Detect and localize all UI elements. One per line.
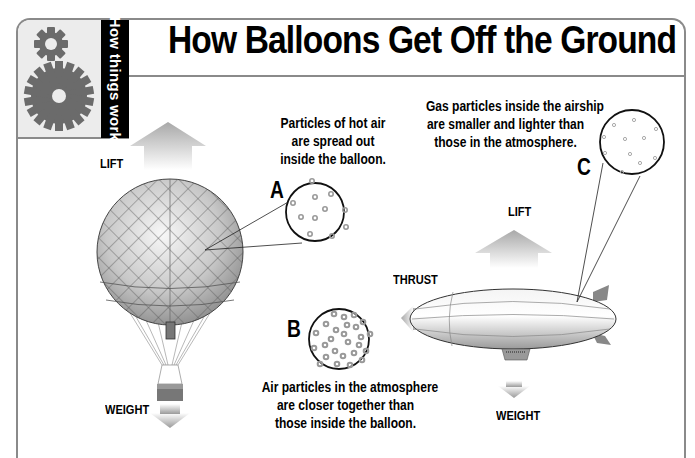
callout-c-caption: Gas particles inside the airship are sma…	[413, 97, 598, 151]
airship-lift-label: LIFT	[508, 204, 531, 219]
callout-b-letter: B	[287, 315, 301, 343]
particles-b-icon	[309, 309, 372, 369]
lift-arrow-icon	[130, 122, 206, 170]
callout-c-letter: C	[577, 153, 591, 181]
callout-a-caption: Particles of hot air are spread out insi…	[258, 114, 408, 168]
gear-small-icon	[34, 27, 68, 61]
gear-large-icon	[24, 61, 94, 131]
callout-b-caption: Air particles in the atmosphere are clos…	[248, 378, 443, 432]
airship-weight-label: WEIGHT	[496, 408, 540, 423]
airship-thrust-label: THRUST	[393, 272, 438, 287]
weight-arrow-icon	[150, 413, 190, 428]
hot-air-balloon-icon	[90, 170, 250, 401]
particles-a-icon	[286, 179, 348, 241]
callout-a-letter: A	[270, 176, 284, 204]
airship-icon	[410, 289, 616, 360]
particles-c-icon	[600, 110, 664, 174]
balloon-lift-label: LIFT	[100, 156, 123, 171]
balloon-weight-label: WEIGHT	[105, 402, 149, 417]
